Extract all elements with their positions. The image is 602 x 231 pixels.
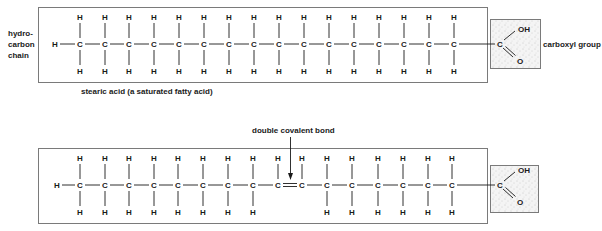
double-bond-label: double covalent bond bbox=[252, 126, 335, 135]
hydrogen-atom-top-15: H bbox=[425, 154, 431, 163]
carbon-atom-8: C bbox=[251, 40, 257, 49]
carbon-atom-10: C bbox=[301, 40, 307, 49]
hydrogen-atom-top-4: H bbox=[151, 154, 157, 163]
hydrogen-atom-bottom-1: H bbox=[77, 67, 83, 76]
hydrocarbon-chain-label-line-1: hydro- bbox=[8, 29, 33, 38]
hydrogen-atom-top-8: H bbox=[250, 154, 256, 163]
hydrocarbon-chain-label-line-3: chain bbox=[8, 51, 29, 60]
carbon-atom-10: C bbox=[299, 181, 305, 190]
hydrogen-atom-top-5: H bbox=[175, 154, 181, 163]
carbon-atom-6: C bbox=[201, 40, 207, 49]
hydrogen-atom-top-13: H bbox=[376, 13, 382, 22]
carbon-atom-1: C bbox=[77, 40, 83, 49]
carbon-atom-5: C bbox=[175, 181, 181, 190]
carbon-atom-9: C bbox=[275, 181, 281, 190]
carbon-atom-14: C bbox=[400, 181, 406, 190]
hydrogen-atom-top-16: H bbox=[451, 13, 457, 22]
hydrogen-atom-bottom-6: H bbox=[200, 208, 206, 217]
terminal-hydrogen: H bbox=[52, 40, 58, 49]
carbon-atom-5: C bbox=[176, 40, 182, 49]
hydrogen-atom-top-11: H bbox=[326, 13, 332, 22]
carbon-atom-4: C bbox=[151, 181, 157, 190]
hydrogen-atom-top-14: H bbox=[400, 154, 406, 163]
hydrogen-atom-bottom-16: H bbox=[451, 67, 457, 76]
unsaturated-hydrocarbon-chain: HCHHCHHCHHCHHCHHCHHCHHCHHCHCHCHHCHHCHHCH… bbox=[54, 154, 455, 217]
hydrogen-atom-bottom-9: H bbox=[276, 67, 282, 76]
double-bond-arrow-icon bbox=[288, 173, 293, 180]
hydrogen-atom-top-3: H bbox=[126, 154, 132, 163]
carboxyl-carbon: C bbox=[497, 181, 503, 190]
hydrogen-atom-bottom-11: H bbox=[326, 67, 332, 76]
hydrogen-atom-top-15: H bbox=[426, 13, 432, 22]
hydrogen-atom-top-13: H bbox=[375, 154, 381, 163]
carbon-atom-11: C bbox=[324, 181, 330, 190]
carbon-atom-16: C bbox=[451, 40, 457, 49]
hydrogen-atom-top-2: H bbox=[102, 154, 108, 163]
hydrogen-atom-bottom-10: H bbox=[301, 67, 307, 76]
hydrogen-atom-bottom-12: H bbox=[349, 208, 355, 217]
hydrogen-atom-top-2: H bbox=[102, 13, 108, 22]
fatty-acid-diagram: HCHHCHHCHHCHHCHHCHHCHHCHHCHHCHHCHHCHHCHH… bbox=[0, 0, 602, 231]
stearic-acid-caption: stearic acid (a saturated fatty acid) bbox=[81, 87, 213, 96]
carbon-atom-7: C bbox=[226, 40, 232, 49]
hydrogen-atom-top-8: H bbox=[251, 13, 257, 22]
carbon-atom-13: C bbox=[375, 181, 381, 190]
hydrogen-atom-bottom-8: H bbox=[251, 67, 257, 76]
hydrogen-atom-top-7: H bbox=[226, 13, 232, 22]
hydrogen-atom-top-11: H bbox=[324, 154, 330, 163]
carbon-atom-14: C bbox=[401, 40, 407, 49]
hydrogen-atom-bottom-16: H bbox=[449, 208, 455, 217]
stearic-acid-structure: HCHHCHHCHHCHHCHHCHHCHHCHHCHHCHHCHHCHHCHH… bbox=[8, 8, 601, 97]
hydrogen-atom-bottom-14: H bbox=[400, 208, 406, 217]
carboxyl-group-label: carboxyl group bbox=[543, 40, 601, 49]
carbon-atom-15: C bbox=[426, 40, 432, 49]
carbon-atom-1: C bbox=[77, 181, 83, 190]
hydroxyl-group: OH bbox=[518, 166, 530, 175]
hydrogen-atom-bottom-6: H bbox=[201, 67, 207, 76]
hydrogen-atom-bottom-7: H bbox=[225, 208, 231, 217]
hydrogen-atom-top-12: H bbox=[351, 13, 357, 22]
hydrogen-atom-bottom-1: H bbox=[77, 208, 83, 217]
hydrogen-atom-bottom-3: H bbox=[126, 67, 132, 76]
hydrogen-atom-top-5: H bbox=[176, 13, 182, 22]
hydrogen-atom-bottom-5: H bbox=[176, 67, 182, 76]
hydrogen-atom-bottom-15: H bbox=[425, 208, 431, 217]
hydrogen-atom-top-9: H bbox=[276, 13, 282, 22]
terminal-hydrogen: H bbox=[54, 181, 60, 190]
hydrogen-atom-bottom-3: H bbox=[126, 208, 132, 217]
hydrogen-atom-top-10: H bbox=[299, 154, 305, 163]
carbon-atom-13: C bbox=[376, 40, 382, 49]
carbon-atom-9: C bbox=[276, 40, 282, 49]
hydrogen-atom-top-6: H bbox=[200, 154, 206, 163]
hydrocarbon-chain-label-line-2: carbon bbox=[8, 40, 35, 49]
hydrogen-atom-top-10: H bbox=[301, 13, 307, 22]
hydrogen-atom-bottom-11: H bbox=[324, 208, 330, 217]
carbon-atom-12: C bbox=[351, 40, 357, 49]
carbon-atom-6: C bbox=[200, 181, 206, 190]
hydrogen-atom-top-16: H bbox=[449, 154, 455, 163]
hydrogen-atom-bottom-12: H bbox=[351, 67, 357, 76]
unsaturated-fatty-acid-structure: HCHHCHHCHHCHHCHHCHHCHHCHHCHCHCHHCHHCHHCH… bbox=[39, 126, 539, 224]
carbon-atom-15: C bbox=[425, 181, 431, 190]
carbonyl-oxygen: O bbox=[517, 198, 523, 207]
hydroxyl-group: OH bbox=[518, 25, 530, 34]
hydrogen-atom-bottom-13: H bbox=[375, 208, 381, 217]
hydrogen-atom-top-3: H bbox=[126, 13, 132, 22]
hydrocarbon-chain: HCHHCHHCHHCHHCHHCHHCHHCHHCHHCHHCHHCHHCHH… bbox=[52, 13, 457, 76]
hydrogen-atom-bottom-2: H bbox=[102, 67, 108, 76]
carboxyl-carbon: C bbox=[497, 40, 503, 49]
hydrogen-atom-bottom-2: H bbox=[102, 208, 108, 217]
carbon-atom-16: C bbox=[449, 181, 455, 190]
carbon-atom-4: C bbox=[151, 40, 157, 49]
hydrogen-atom-top-7: H bbox=[225, 154, 231, 163]
carbon-atom-12: C bbox=[349, 181, 355, 190]
hydrogen-atom-bottom-4: H bbox=[151, 208, 157, 217]
hydrogen-atom-top-1: H bbox=[77, 154, 83, 163]
hydrogen-atom-bottom-7: H bbox=[226, 67, 232, 76]
carbon-atom-7: C bbox=[225, 181, 231, 190]
carbon-atom-8: C bbox=[250, 181, 256, 190]
hydrogen-atom-bottom-4: H bbox=[151, 67, 157, 76]
hydrogen-atom-top-9: H bbox=[275, 154, 281, 163]
hydrogen-atom-bottom-8: H bbox=[250, 208, 256, 217]
hydrogen-atom-top-1: H bbox=[77, 13, 83, 22]
